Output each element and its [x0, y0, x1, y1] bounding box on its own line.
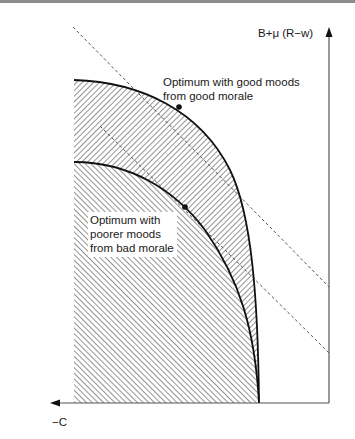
y-axis-arrow-icon: [326, 27, 333, 37]
bad-optimum-label: Optimum with poorer moods from bad moral…: [88, 212, 177, 257]
good-optimum-point: [176, 104, 182, 110]
bad-optimum-point: [182, 204, 188, 210]
diagram-canvas: [0, 0, 355, 439]
x-axis-label: −C: [52, 415, 67, 429]
x-axis-arrow-icon: [50, 400, 60, 407]
bad-optimum-label-line: Optimum with: [90, 213, 174, 227]
good-optimum-label-line: Optimum with good moods: [163, 75, 300, 89]
y-axis-label: B+μ (R−w): [258, 26, 313, 40]
bad-optimum-label-line: poorer moods: [90, 227, 174, 241]
bad-optimum-label-line: from bad morale: [90, 241, 174, 255]
good-optimum-label: Optimum with good moods from good morale: [163, 75, 300, 103]
good-optimum-label-line: from good morale: [163, 89, 300, 103]
